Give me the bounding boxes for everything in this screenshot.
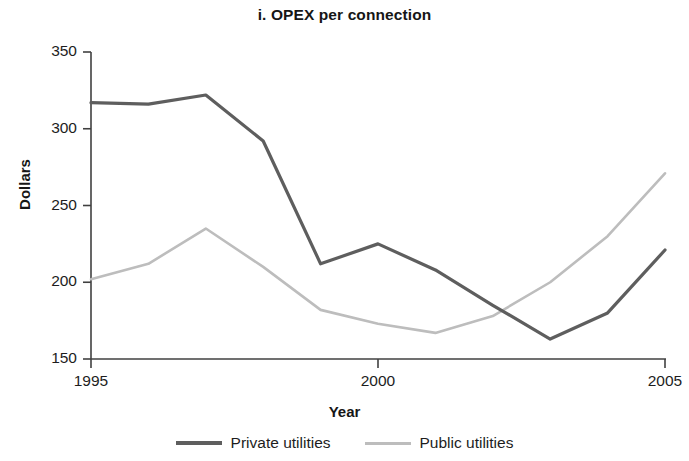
series-line-private-utilities <box>91 95 665 339</box>
legend-item[interactable]: Public utilities <box>365 434 514 452</box>
legend-swatch-icon <box>365 442 411 445</box>
series-line-public-utilities <box>91 173 665 333</box>
legend-item[interactable]: Private utilities <box>176 434 331 452</box>
legend-label: Private utilities <box>231 434 331 452</box>
legend-label: Public utilities <box>420 434 514 452</box>
plot-area <box>0 0 689 461</box>
chart-legend: Private utilitiesPublic utilities <box>0 434 689 452</box>
legend-swatch-icon <box>176 441 222 445</box>
chart-figure: i. OPEX per connection Dollars Year 1502… <box>0 0 689 461</box>
